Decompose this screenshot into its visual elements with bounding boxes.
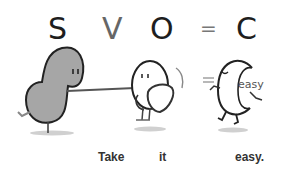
bean-character-icon [18, 47, 135, 135]
caption-word-easy: easy. [235, 150, 264, 164]
egg-character-icon [132, 61, 183, 132]
illustration: easy [0, 0, 281, 170]
easy-label: easy [238, 78, 264, 91]
c-character-icon: easy [203, 61, 264, 133]
caption-word-it: it [159, 150, 166, 164]
caption-word-take: Take [98, 150, 124, 164]
